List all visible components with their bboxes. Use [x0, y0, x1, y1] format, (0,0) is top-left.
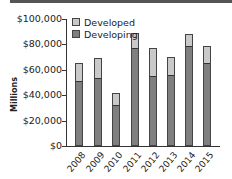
legend-label-developed: Developed	[84, 17, 135, 28]
bar-segment-developing	[186, 47, 192, 145]
y-tick	[62, 121, 66, 122]
bar-segment-developed	[150, 49, 156, 78]
x-tick-label: 2012	[139, 150, 161, 174]
bar-2012	[149, 48, 157, 146]
bar-segment-developing	[132, 49, 138, 145]
y-tick	[62, 95, 66, 96]
bar-2014	[185, 34, 193, 146]
x-tick-label: 2009	[84, 150, 106, 174]
bar-segment-developing	[95, 79, 101, 145]
bar-2013	[167, 57, 175, 146]
x-tick-label: 2013	[157, 150, 179, 174]
top-border	[10, 0, 232, 3]
bar-2009	[94, 58, 102, 146]
bar-2011	[131, 33, 139, 146]
y-tick-label: $100,000	[17, 13, 62, 24]
y-tick-label: $40,000	[23, 89, 62, 100]
x-tick-label: 2015	[193, 150, 215, 174]
bar-segment-developed	[113, 94, 119, 106]
bar-segment-developing	[76, 82, 82, 145]
bar-2015	[203, 46, 211, 146]
bar-2008	[75, 63, 83, 146]
bar-segment-developing	[204, 64, 210, 145]
x-tick-label: 2014	[175, 150, 197, 174]
y-tick	[62, 44, 66, 45]
y-tick-label: $80,000	[23, 38, 62, 49]
y-tick	[62, 146, 66, 147]
y-tick-label: $60,000	[23, 64, 62, 75]
legend-item-developed: Developed	[72, 16, 138, 28]
y-axis-title: Millions	[10, 75, 19, 115]
bar-segment-developing	[168, 76, 174, 145]
x-tick-label: 2010	[102, 150, 124, 174]
bar-segment-developed	[204, 47, 210, 65]
bar-segment-developed	[76, 64, 82, 82]
bar-segment-developing	[113, 106, 119, 145]
legend-label-developing: Developing	[84, 29, 138, 40]
x-axis	[66, 146, 220, 147]
legend: Developed Developing	[72, 16, 138, 40]
y-axis	[66, 19, 67, 147]
x-tick-label: 2008	[65, 150, 87, 174]
bar-segment-developed	[186, 35, 192, 46]
bar-segment-developed	[168, 58, 174, 76]
y-tick-label: $20,000	[23, 115, 62, 126]
bar-segment-developed	[95, 59, 101, 79]
developed-swatch-icon	[72, 18, 80, 26]
bar-segment-developing	[150, 77, 156, 145]
y-tick-label: $0	[50, 140, 62, 151]
x-tick-label: 2011	[121, 150, 143, 174]
bar-2010	[112, 93, 120, 146]
legend-item-developing: Developing	[72, 28, 138, 40]
y-tick	[62, 70, 66, 71]
y-tick	[62, 19, 66, 20]
developing-swatch-icon	[72, 30, 80, 38]
